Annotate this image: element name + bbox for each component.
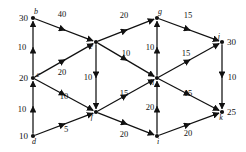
node-dot-f (94, 110, 98, 114)
edge-weight-c-b: 10 (18, 42, 27, 52)
node-label-k: k (219, 113, 223, 122)
edge-weight-e-g: 20 (120, 10, 129, 20)
node-dot-g (155, 16, 159, 20)
edge-weight-e-h: 10 (122, 48, 131, 58)
node-label-j: j (217, 32, 221, 41)
node-supply-j: 30 (227, 37, 237, 47)
edge-weight-e-f: 10 (84, 72, 93, 82)
edge-weight-h-k: 15 (184, 88, 193, 98)
node-label-f: f (91, 112, 95, 121)
edge-weight-h-g: 10 (146, 42, 155, 52)
edge-direction-arrow-e-h (126, 60, 127, 61)
edge-layer (33, 19, 222, 135)
graph-canvas: b30c20d10efghij30k25 1010402020101010515… (0, 0, 246, 152)
node-supply-d: 10 (19, 131, 29, 141)
edge-weight-b-e: 40 (58, 9, 67, 19)
edge-weight-g-j: 15 (184, 10, 193, 20)
node-label-i: i (157, 137, 159, 146)
node-dot-h (155, 76, 159, 80)
edge-weight-d-c: 10 (18, 104, 27, 114)
node-dot-c (31, 76, 35, 80)
edge-weight-i-h: 20 (146, 102, 155, 112)
edge-direction-arrow-h-j (189, 60, 190, 61)
edge-weight-f-h: 15 (120, 88, 129, 98)
node-label-c: c (37, 70, 41, 79)
node-supply-b: 30 (19, 13, 29, 23)
edge-weight-d-f: 5 (64, 124, 68, 134)
edge-weight-c-e: 20 (58, 67, 67, 77)
edge-weight-h-j: 15 (182, 48, 191, 58)
node-label-d: d (32, 137, 37, 146)
node-label-g: g (158, 7, 162, 16)
edge-weight-i-k: 20 (184, 128, 193, 138)
node-label-h: h (150, 78, 154, 87)
node-label-b: b (34, 7, 38, 16)
node-dot-e (94, 40, 98, 44)
edge-direction-arrow-c-e (64, 60, 65, 61)
node-dot-b (31, 16, 35, 20)
network-diagram: b30c20d10efghij30k25 1010402020101010515… (0, 0, 246, 152)
node-supply-k: 25 (227, 107, 237, 117)
edge-weight-f-i: 20 (120, 129, 129, 139)
node-label-e: e (89, 42, 93, 51)
node-dot-j (220, 40, 224, 44)
edge-weight-c-f: 10 (60, 91, 69, 101)
node-supply-c: 20 (19, 73, 29, 83)
edge-weight-j-k: 10 (228, 72, 237, 82)
